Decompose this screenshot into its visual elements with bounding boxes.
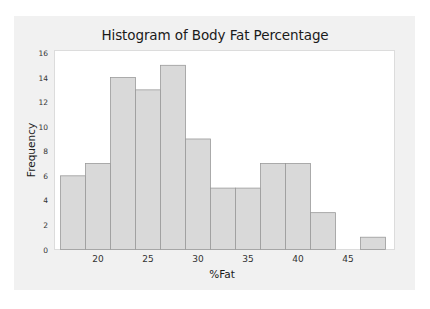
histogram-bar	[61, 176, 86, 250]
x-tick-label: 30	[192, 254, 204, 264]
histogram-bar	[136, 90, 161, 250]
histogram-bar	[161, 65, 186, 249]
histogram-bar	[361, 237, 386, 249]
y-tick-label: 6	[43, 172, 48, 181]
y-tick-label: 8	[43, 147, 48, 156]
x-tick-label: 45	[342, 254, 353, 264]
y-tick-label: 10	[38, 123, 48, 132]
y-tick-label: 2	[43, 221, 48, 230]
x-tick-label: 25	[142, 254, 153, 264]
histogram-bar	[211, 188, 236, 249]
histogram-svg: 0246810121416 202530354045	[0, 0, 430, 309]
histogram-bar	[311, 213, 336, 250]
y-tick-label: 4	[43, 196, 48, 205]
histogram-bar	[86, 164, 111, 250]
histogram-bar	[286, 164, 311, 250]
y-axis-ticks: 0246810121416	[38, 49, 48, 254]
histogram-bar	[261, 164, 286, 250]
x-axis-ticks: 202530354045	[92, 254, 353, 264]
y-tick-label: 16	[38, 49, 48, 58]
histogram-bars	[61, 65, 386, 249]
x-tick-label: 35	[242, 254, 253, 264]
y-tick-label: 14	[38, 74, 48, 83]
y-tick-label: 0	[43, 246, 48, 255]
y-tick-label: 12	[38, 98, 48, 107]
histogram-bar	[186, 139, 211, 250]
x-tick-label: 40	[292, 254, 304, 264]
histogram-bar	[111, 78, 136, 250]
x-tick-label: 20	[92, 254, 104, 264]
histogram-bar	[236, 188, 261, 249]
